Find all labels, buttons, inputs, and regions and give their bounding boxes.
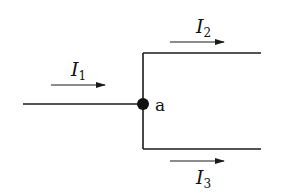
current-label-i3: I3 <box>195 166 211 191</box>
node-label: a <box>155 95 165 115</box>
current-label-i1: I1 <box>70 58 86 83</box>
junction-node <box>137 98 149 110</box>
current-label-i2: I2 <box>195 15 211 40</box>
junction-diagram: a I1 I2 I3 <box>0 0 281 194</box>
